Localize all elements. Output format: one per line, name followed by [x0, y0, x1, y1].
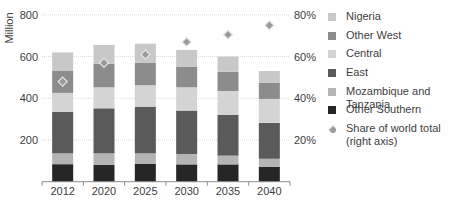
bar-segment-east	[259, 123, 280, 159]
legend-swatch-icon	[328, 106, 336, 114]
legend-item: Nigeria	[327, 10, 464, 29]
bar-segment-nigeria	[176, 50, 197, 67]
bar-2012	[52, 52, 73, 181]
bar-segment-mozambique-and-tanzania	[218, 156, 239, 165]
bar-segment-east	[135, 107, 156, 154]
chart: 200400600800 20%40%60%80% Million 201220…	[0, 0, 464, 201]
legend-item: Mozambique and Tanzania	[327, 85, 464, 104]
x-tick-label: 2012	[50, 185, 74, 197]
legend-label: Nigeria	[346, 10, 381, 23]
bar-segment-other-southern	[259, 167, 280, 182]
bar-segment-east	[52, 112, 73, 153]
bar-2030	[176, 50, 197, 182]
stacked-bars	[52, 44, 280, 182]
share-markers	[58, 21, 274, 86]
bar-segment-other-west	[218, 72, 239, 91]
left-tick-label: 200	[20, 134, 38, 146]
legend-label: Share of world total(right axis)	[346, 122, 441, 148]
bar-segment-other-southern	[176, 164, 197, 181]
bar-segment-east	[218, 115, 239, 156]
bar-2040	[259, 71, 280, 182]
legend-item: Share of world total(right axis)	[327, 122, 464, 141]
bar-segment-central	[218, 91, 239, 115]
x-axis	[42, 182, 290, 186]
share-diamond-marker	[224, 30, 233, 39]
gridlines	[42, 15, 290, 140]
legend-label: East	[346, 66, 368, 79]
bar-segment-nigeria	[218, 57, 239, 72]
right-axis-ticks: 20%40%60%80%	[294, 9, 316, 146]
legend-swatch-icon	[328, 69, 336, 77]
x-tick-label: 2020	[92, 185, 116, 197]
share-diamond-marker	[265, 21, 274, 30]
x-tick-label: 2030	[174, 185, 198, 197]
bar-segment-mozambique-and-tanzania	[52, 153, 73, 164]
legend-swatch-icon	[328, 50, 336, 58]
bar-segment-mozambique-and-tanzania	[94, 153, 115, 165]
right-tick-label: 20%	[294, 134, 316, 146]
legend-label: Other West	[346, 29, 401, 42]
share-diamond-marker	[182, 38, 191, 47]
bar-2025	[135, 44, 156, 182]
left-tick-label: 400	[20, 92, 38, 104]
legend-label: Other Southern	[346, 103, 421, 116]
bar-segment-other-southern	[94, 165, 115, 182]
bar-segment-nigeria	[259, 71, 280, 83]
x-tick-label: 2040	[257, 185, 281, 197]
x-axis-labels: 201220202025203020352040	[50, 185, 281, 197]
bar-segment-other-west	[176, 67, 197, 88]
bar-segment-east	[94, 108, 115, 153]
bar-segment-nigeria	[52, 52, 73, 71]
bar-segment-other-west	[135, 63, 156, 86]
left-tick-label: 600	[20, 51, 38, 63]
right-tick-label: 60%	[294, 51, 316, 63]
bar-segment-mozambique-and-tanzania	[176, 154, 197, 164]
right-tick-label: 40%	[294, 92, 316, 104]
x-tick-label: 2025	[133, 185, 157, 197]
legend-item: Other West	[327, 29, 464, 48]
bar-2035	[218, 57, 239, 182]
legend-label: Central	[346, 47, 381, 60]
left-axis-ticks: 200400600800	[20, 9, 38, 146]
bar-segment-mozambique-and-tanzania	[135, 153, 156, 164]
bar-segment-central	[135, 85, 156, 106]
bar-segment-central	[259, 99, 280, 123]
bar-segment-other-west	[259, 83, 280, 99]
bar-segment-other-southern	[135, 164, 156, 182]
legend-swatch-icon	[328, 32, 336, 40]
bar-segment-east	[176, 111, 197, 154]
bar-segment-central	[94, 87, 115, 108]
bar-segment-mozambique-and-tanzania	[259, 159, 280, 167]
right-tick-label: 80%	[294, 9, 316, 21]
legend-swatch-icon	[328, 13, 336, 21]
legend-item: East	[327, 66, 464, 85]
y-axis-label: Million	[3, 12, 15, 43]
legend-swatch-icon	[328, 88, 336, 96]
legend: NigeriaOther WestCentralEastMozambique a…	[327, 10, 464, 141]
legend-label-secondary: (right axis)	[346, 135, 397, 147]
x-tick-label: 2035	[216, 185, 240, 197]
bar-segment-other-southern	[218, 164, 239, 181]
diamond-icon	[328, 125, 336, 133]
bar-segment-other-southern	[52, 164, 73, 182]
left-tick-label: 800	[20, 9, 38, 21]
bar-segment-central	[176, 87, 197, 110]
bar-segment-central	[52, 93, 73, 112]
legend-item: Central	[327, 47, 464, 66]
